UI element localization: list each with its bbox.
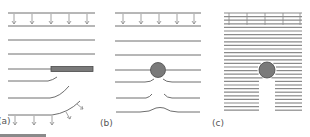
circle-obstacle: [259, 62, 275, 78]
flow-line: [163, 79, 201, 82]
flow-line: [116, 94, 152, 98]
scale-bar: [0, 134, 46, 137]
arrow-icon-group: [121, 14, 196, 24]
panel-b: (b): [100, 13, 201, 128]
circle-obstacle: [151, 63, 166, 78]
flow-line: [115, 79, 154, 82]
flow-line: [116, 108, 200, 113]
flow-line: [8, 77, 57, 81]
arrow-icon-group: [12, 14, 89, 24]
flow-line: [164, 94, 200, 98]
panel-label-b: (b): [100, 118, 113, 128]
plate-obstacle: [51, 67, 93, 72]
flow-line: [8, 86, 69, 98]
panel-label-c: (c): [212, 118, 224, 128]
panel-label-a: (a): [0, 116, 11, 126]
panel-a: (a): [0, 13, 95, 137]
flow-line: [8, 101, 80, 115]
panel-c: [224, 13, 302, 110]
figure-canvas: (a) (b) (c): [0, 0, 310, 137]
